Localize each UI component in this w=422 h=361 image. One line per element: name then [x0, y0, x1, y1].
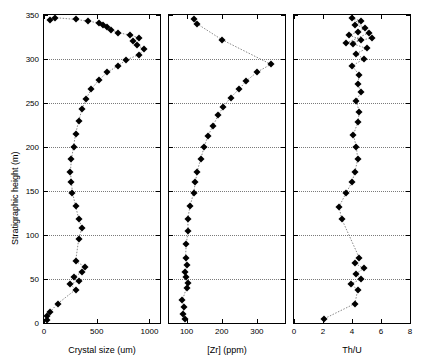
x-tick	[410, 319, 411, 323]
x-tick-label: 1000	[141, 327, 159, 336]
x-tick-label: 4	[350, 327, 354, 336]
x-tick-label: 200	[215, 327, 228, 336]
x-tick-label: 0	[292, 327, 296, 336]
y-tick-label: 150	[17, 187, 39, 196]
x-tick-label: 300	[250, 327, 263, 336]
panel-thu	[293, 14, 411, 324]
x-tick-label: 2	[321, 327, 325, 336]
x-tick-label: 0	[42, 327, 46, 336]
y-tick-label: 0	[17, 319, 39, 328]
y-tick-right	[281, 323, 285, 324]
series-connector	[44, 15, 160, 323]
x-tick-top	[410, 15, 411, 19]
y-tick-label: 100	[17, 231, 39, 240]
y-tick-label: 200	[17, 143, 39, 152]
x-tick-label: 100	[180, 327, 193, 336]
panel-zr	[168, 14, 286, 324]
panel3-x-title: Th/U	[342, 345, 362, 355]
y-tick	[169, 323, 173, 324]
y-tick-label: 300	[17, 55, 39, 64]
series-connector	[294, 15, 410, 323]
panel-crystal-size	[43, 14, 161, 324]
y-tick	[294, 323, 298, 324]
y-tick-right	[406, 323, 410, 324]
y-tick-right	[156, 323, 160, 324]
panel1-x-title: Crystal size (um)	[68, 345, 136, 355]
panel2-x-title: [Zr] (ppm)	[207, 345, 247, 355]
y-tick-label: 250	[17, 99, 39, 108]
y-tick-label: 50	[17, 275, 39, 284]
x-tick-label: 6	[379, 327, 383, 336]
x-tick-label: 500	[90, 327, 103, 336]
figure-root: Stratigraphic height (m) Crystal size (u…	[0, 0, 422, 361]
x-tick-label: 8	[408, 327, 412, 336]
y-tick-label: 350	[17, 11, 39, 20]
